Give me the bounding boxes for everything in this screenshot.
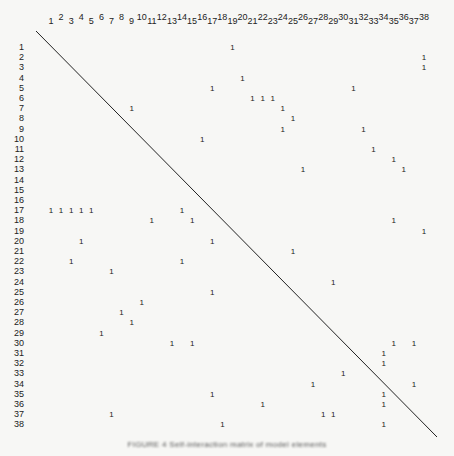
matrix-cell: 1 [391, 156, 395, 164]
matrix-cell: 1 [381, 391, 385, 399]
row-label: 34 [4, 380, 24, 389]
matrix-cell: 1 [210, 391, 214, 399]
row-label: 10 [4, 135, 24, 144]
column-label: 35 [389, 17, 399, 26]
row-label: 16 [4, 196, 24, 205]
column-label: 28 [318, 13, 328, 22]
matrix-cell: 1 [79, 207, 83, 215]
matrix-cell: 1 [190, 217, 194, 225]
matrix-cell: 1 [109, 268, 113, 276]
row-label: 26 [4, 298, 24, 307]
column-label: 7 [109, 17, 114, 26]
column-label: 24 [278, 13, 288, 22]
column-label: 21 [248, 17, 258, 26]
matrix-cell: 1 [69, 207, 73, 215]
matrix-cell: 1 [250, 95, 254, 103]
row-label: 24 [4, 278, 24, 287]
matrix-cell: 1 [412, 381, 416, 389]
column-label: 12 [157, 13, 167, 22]
row-label: 22 [4, 257, 24, 266]
column-label: 4 [79, 13, 84, 22]
figure-caption: FIGURE 4 Self-interaction matrix of mode… [0, 440, 454, 449]
matrix-cell: 1 [381, 360, 385, 368]
matrix-cell: 1 [230, 44, 234, 52]
row-label: 31 [4, 349, 24, 358]
matrix-cell: 1 [422, 54, 426, 62]
matrix-cell: 1 [210, 85, 214, 93]
matrix-cell: 1 [291, 248, 295, 256]
column-label: 8 [119, 13, 124, 22]
column-label: 19 [227, 17, 237, 26]
column-label: 13 [167, 17, 177, 26]
column-label: 14 [177, 13, 187, 22]
column-label: 26 [298, 13, 308, 22]
row-label: 8 [4, 114, 24, 123]
matrix-cell: 1 [170, 340, 174, 348]
row-label: 20 [4, 237, 24, 246]
matrix-cell: 1 [150, 217, 154, 225]
row-label: 28 [4, 318, 24, 327]
row-label: 19 [4, 227, 24, 236]
matrix-cell: 1 [402, 166, 406, 174]
matrix-cell: 1 [240, 75, 244, 83]
column-label: 38 [419, 13, 429, 22]
row-label: 9 [4, 125, 24, 134]
matrix-cell: 1 [301, 166, 305, 174]
column-label: 17 [207, 17, 217, 26]
column-label: 30 [338, 13, 348, 22]
matrix-cell: 1 [422, 228, 426, 236]
matrix-figure: 1234567891011121314151617181920212223242… [0, 0, 454, 456]
matrix-cell: 1 [99, 330, 103, 338]
column-label: 29 [328, 17, 338, 26]
matrix-cell: 1 [89, 207, 93, 215]
column-label: 32 [358, 13, 368, 22]
matrix-cell: 1 [180, 207, 184, 215]
row-label: 30 [4, 339, 24, 348]
column-label: 16 [197, 13, 207, 22]
row-label: 21 [4, 247, 24, 256]
column-label: 18 [217, 13, 227, 22]
column-label: 25 [288, 17, 298, 26]
row-label: 37 [4, 410, 24, 419]
column-label: 34 [379, 13, 389, 22]
row-label: 35 [4, 390, 24, 399]
matrix-cell: 1 [59, 207, 63, 215]
matrix-cell: 1 [109, 411, 113, 419]
row-label: 14 [4, 176, 24, 185]
matrix-cell: 1 [210, 289, 214, 297]
row-label: 36 [4, 400, 24, 409]
matrix-cell: 1 [79, 238, 83, 246]
matrix-cell: 1 [190, 340, 194, 348]
matrix-cell: 1 [381, 350, 385, 358]
matrix-cell: 1 [200, 136, 204, 144]
matrix-cell: 1 [129, 105, 133, 113]
row-label: 13 [4, 165, 24, 174]
matrix-cell: 1 [371, 146, 375, 154]
column-label: 5 [89, 17, 94, 26]
row-label: 11 [4, 145, 24, 154]
row-label: 12 [4, 155, 24, 164]
row-label: 4 [4, 74, 24, 83]
row-label: 2 [4, 53, 24, 62]
column-label: 33 [369, 17, 379, 26]
column-label: 15 [187, 17, 197, 26]
column-label: 23 [268, 17, 278, 26]
column-label: 2 [59, 13, 64, 22]
matrix-cell: 1 [49, 207, 53, 215]
diagonal-line [0, 0, 454, 456]
matrix-cell: 1 [381, 421, 385, 429]
column-label: 31 [348, 17, 358, 26]
column-label: 27 [308, 17, 318, 26]
matrix-cell: 1 [351, 85, 355, 93]
column-label: 6 [99, 13, 104, 22]
row-label: 1 [4, 43, 24, 52]
column-label: 20 [238, 13, 248, 22]
matrix-cell: 1 [271, 95, 275, 103]
matrix-cell: 1 [331, 279, 335, 287]
matrix-cell: 1 [129, 319, 133, 327]
matrix-cell: 1 [180, 258, 184, 266]
matrix-cell: 1 [69, 258, 73, 266]
row-label: 6 [4, 94, 24, 103]
matrix-cell: 1 [412, 340, 416, 348]
column-label: 22 [258, 13, 268, 22]
